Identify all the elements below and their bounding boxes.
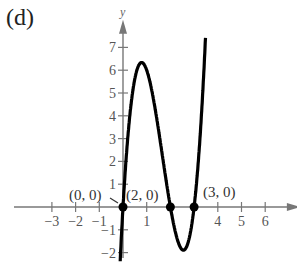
y-tick-label: 5 [109, 86, 116, 101]
y-axis-label: y [119, 5, 126, 19]
x-tick-label: 4 [214, 214, 221, 229]
point-label: (2, 0) [126, 187, 159, 204]
y-tick-label: 7 [109, 40, 116, 55]
y-tick-label: −2 [101, 246, 116, 261]
y-tick-label: −1 [101, 223, 116, 238]
zero-point [166, 203, 175, 212]
x-tick-label: −2 [68, 214, 83, 229]
y-tick-label: 6 [109, 63, 116, 78]
zero-point [119, 203, 128, 212]
function-curve [120, 38, 205, 261]
x-tick-label: 5 [238, 214, 245, 229]
y-axis-arrow-icon [119, 20, 127, 34]
zero-point [190, 203, 199, 212]
y-tick-label: 4 [109, 109, 116, 124]
label-leader-line [110, 198, 118, 203]
y-tick-label: 3 [109, 132, 116, 147]
x-tick-label: −3 [44, 214, 59, 229]
x-tick-label: 6 [262, 214, 269, 229]
y-tick-label: 1 [109, 177, 116, 192]
x-axis-arrow-icon [287, 203, 297, 211]
function-graph: xy−3−2−11456−2−11234567(0, 0)(2, 0)(3, 0… [0, 0, 297, 265]
y-tick-label: 2 [109, 154, 116, 169]
point-label: (0, 0) [69, 187, 102, 204]
x-tick-label: 1 [143, 214, 150, 229]
point-label: (3, 0) [203, 184, 236, 201]
